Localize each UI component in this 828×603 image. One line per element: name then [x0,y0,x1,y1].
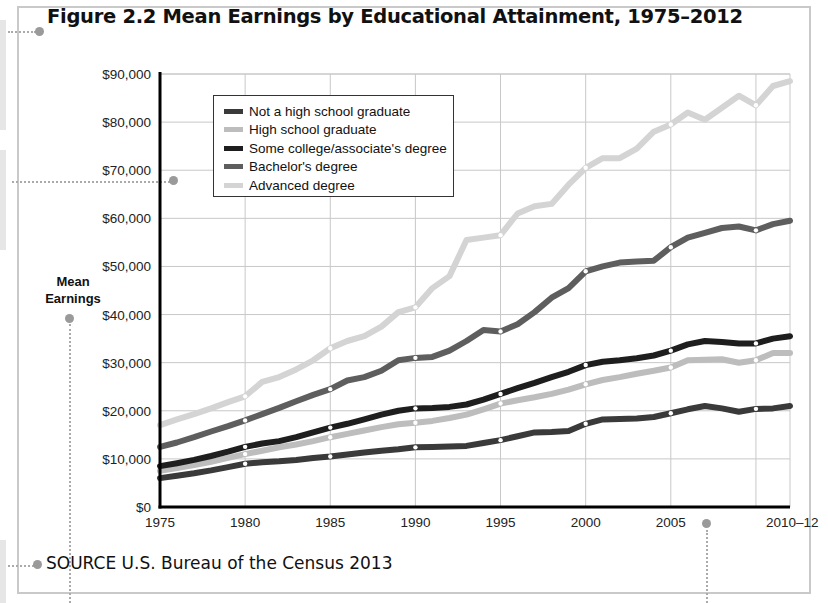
x-tick-label: 1990 [400,515,430,530]
gridline-marker [328,387,332,391]
x-axis-tick-labels: 19751980198519901995200020052010–12 [145,515,819,530]
gridline-marker [583,382,587,386]
legend-label: Advanced degree [249,178,355,193]
legend-swatch-icon [224,109,243,114]
gridline-marker [669,365,673,369]
gridline-marker [754,407,758,411]
gridline-marker [243,452,247,456]
y-tick-label: $20,000 [102,404,151,419]
y-tick-label: $70,000 [102,163,151,178]
x-tick-label: 2000 [571,515,601,530]
chart-legend: Not a high school graduate High school g… [213,95,454,197]
gridline-marker [669,348,673,352]
gridline-marker [754,103,758,107]
legend-swatch-icon [224,164,243,169]
gridline-marker [669,411,673,415]
x-tick-label: 2005 [656,515,686,530]
gridline-marker [243,462,247,466]
legend-item-some-college: Some college/associate's degree [224,139,453,158]
gridline-marker [328,346,332,350]
legend-label: High school graduate [249,122,377,137]
x-tick-label: 1985 [315,515,345,530]
y-tick-label: $60,000 [102,211,151,226]
series-line [160,353,790,471]
gridline-marker [498,392,502,396]
legend-label: Bachelor's degree [249,159,357,174]
y-tick-label: $80,000 [102,115,151,130]
legend-swatch-icon [224,183,243,188]
gridline-marker [413,421,417,425]
y-tick-label: $40,000 [102,308,151,323]
gridline-marker [583,269,587,273]
gridline-marker [498,233,502,237]
gridline-marker [754,358,758,362]
y-tick-label: $10,000 [102,452,151,467]
legend-item-hs-grad: High school graduate [224,121,453,140]
gridline-marker [754,228,758,232]
y-tick-label: $30,000 [102,356,151,371]
gridline-marker [328,425,332,429]
gridline-marker [498,329,502,333]
line-chart: $0$10,000$20,000$30,000$40,000$50,000$60… [0,0,828,603]
legend-item-advanced: Advanced degree [224,176,453,195]
legend-item-not-hs: Not a high school graduate [224,102,453,121]
gridline-marker [413,305,417,309]
x-tick-label: 1995 [486,515,516,530]
gridline-marker [413,406,417,410]
gridline-marker [583,166,587,170]
gridline-marker [669,122,673,126]
gridline-marker [413,445,417,449]
gridline-marker [669,245,673,249]
gridline-marker [583,422,587,426]
gridline-marker [754,341,758,345]
y-tick-label: $90,000 [102,67,151,82]
y-axis-tick-labels: $0$10,000$20,000$30,000$40,000$50,000$60… [102,67,151,515]
y-tick-label: $50,000 [102,259,151,274]
y-tick-label: $0 [136,500,151,515]
gridline-marker [498,438,502,442]
gridline-marker [243,445,247,449]
gridline-marker [498,401,502,405]
legend-swatch-icon [224,127,243,132]
gridline-marker [583,363,587,367]
gridline-marker [328,435,332,439]
source-note: SOURCE U.S. Bureau of the Census 2013 [46,553,393,573]
x-tick-label: 1975 [145,515,175,530]
x-tick-label: 2010–12 [766,515,819,530]
gridline-marker [413,356,417,360]
gridline-marker [328,454,332,458]
legend-item-bachelors: Bachelor's degree [224,158,453,177]
legend-swatch-icon [224,146,243,151]
legend-label: Not a high school graduate [249,104,410,119]
gridline-marker [243,394,247,398]
legend-label: Some college/associate's degree [249,141,447,156]
gridline-marker [243,418,247,422]
x-tick-label: 1980 [230,515,260,530]
